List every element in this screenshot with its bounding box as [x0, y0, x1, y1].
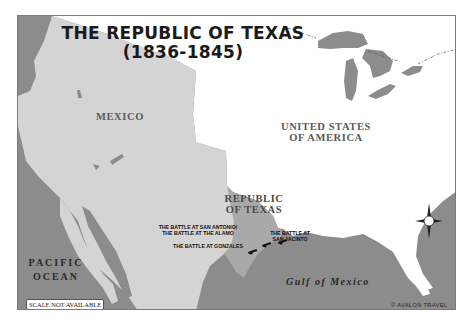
label-battle-san-jacinto: THE BATTLE AT SAN JACINTO [268, 230, 312, 242]
label-pacific-ocean: PACIFIC OCEAN [26, 256, 86, 284]
battle-alamo-line2: THE BATTLE AT THE ALAMO [146, 230, 250, 236]
scale-note: SCALE NOT AVAILABLE [26, 299, 104, 310]
title-line1: THE REPUBLIC OF TEXAS [58, 24, 308, 43]
battle-sj-line2: SAN JACINTO [268, 236, 312, 242]
label-gulf-of-mexico: Gulf of Mexico [286, 276, 370, 287]
label-battle-gonzales: THE BATTLE AT GONZALES [173, 243, 243, 249]
map-frame: THE REPUBLIC OF TEXAS (1836-1845) MEXICO… [17, 15, 456, 310]
texas-line1: REPUBLIC [224, 193, 284, 204]
pacific-line2: OCEAN [26, 270, 86, 284]
label-usa: UNITED STATES OF AMERICA [276, 121, 376, 143]
usa-line1: UNITED STATES [276, 121, 376, 132]
title-line2: (1836-1845) [58, 43, 308, 62]
label-battle-alamo: THE BATTLE AT SAN ANTONIO/ THE BATTLE AT… [146, 224, 250, 236]
usa-line2: OF AMERICA [276, 132, 376, 143]
map-title: THE REPUBLIC OF TEXAS (1836-1845) [58, 24, 308, 62]
pacific-line1: PACIFIC [26, 256, 86, 270]
label-republic-of-texas: REPUBLIC OF TEXAS [224, 193, 284, 215]
label-mexico: MEXICO [96, 111, 144, 122]
texas-line2: OF TEXAS [224, 204, 284, 215]
credit: © AVALON TRAVEL [391, 302, 447, 308]
